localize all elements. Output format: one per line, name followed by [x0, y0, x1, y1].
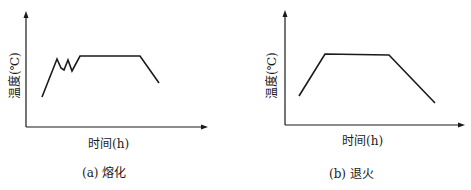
panel-b-x-axis-label: 时间(h) — [342, 135, 383, 147]
panel-a-x-axis-label: 时间(h) — [88, 138, 129, 150]
diagram-canvas — [0, 0, 471, 190]
panel-a-temperature-curve — [42, 56, 159, 97]
panel-b-y-arrow-icon — [283, 10, 288, 17]
panel-b-y-axis-label: 温度(℃) — [266, 53, 278, 99]
panel-b-temperature-curve — [299, 54, 435, 103]
panel-a-x-arrow-icon — [201, 125, 208, 130]
panel-a-y-arrow-icon — [24, 11, 29, 18]
panel-a-y-axis-label: 温度(℃) — [9, 53, 21, 99]
panel-b-caption: (b) 退火 — [329, 168, 374, 180]
panel-b-x-arrow-icon — [458, 123, 465, 128]
panel-b-axes — [285, 15, 460, 125]
panel-a-caption: (a) 熔化 — [82, 167, 126, 179]
